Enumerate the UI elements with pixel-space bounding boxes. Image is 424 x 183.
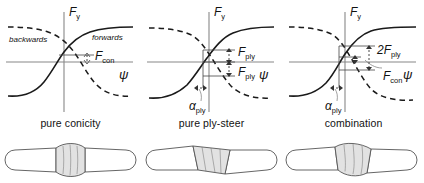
f-con-label: Fcon (383, 69, 402, 85)
f-ply-lower-label: Fply (238, 65, 255, 81)
tyre-contact-patch (335, 143, 371, 175)
alpha-ply-leader (335, 89, 337, 101)
panel-combination: Fy ψ 2Fply Fcon αply combination (283, 0, 424, 183)
tyre-force-figure: Fy ψ backwards forwards Fcon pure conici… (0, 0, 424, 183)
tyre-footprint-combination (283, 136, 424, 183)
alpha-ply-label: αply (189, 99, 206, 115)
backwards-label: backwards (9, 35, 47, 44)
curve-backwards (289, 27, 413, 100)
caption-combination: combination (283, 116, 424, 130)
tyre-left-shoulder (286, 147, 338, 170)
caption-pure-ply-steer: pure ply-steer (141, 116, 282, 130)
tyre-left-shoulder (5, 148, 56, 172)
alpha-ply-label: αply (325, 99, 342, 115)
two-f-ply-label: 2Fply (376, 43, 401, 59)
f-con-label: Fcon (95, 49, 114, 65)
alpha-ply-arrow-right (203, 85, 207, 91)
x-axis-label: ψ (403, 67, 413, 82)
plot-pure-conicity: Fy ψ backwards forwards Fcon (0, 0, 141, 115)
alpha-ply-arrow-right (339, 85, 343, 91)
tyre-left-shoulder (146, 146, 198, 170)
curve-backwards (149, 28, 271, 98)
plot-pure-ply-steer: Fy ψ Fply Fply αply (141, 0, 282, 115)
f-ply-upper-label: Fply (238, 45, 255, 61)
y-axis-label: Fy (350, 5, 361, 21)
tyre-right-shoulder (367, 149, 417, 173)
alpha-ply-arrow-left (330, 85, 334, 91)
alpha-ply-leader (199, 89, 201, 101)
plot-combination: Fy ψ 2Fply Fcon αply (283, 0, 424, 115)
y-axis-label: Fy (69, 5, 80, 21)
forwards-label: forwards (92, 33, 123, 42)
f-con-leader (365, 60, 382, 68)
tyre-footprint-pure-conicity (0, 136, 141, 183)
panel-pure-conicity: Fy ψ backwards forwards Fcon pure conici… (0, 0, 141, 183)
curve-forwards (149, 27, 274, 98)
panel-pure-ply-steer: Fy ψ Fply Fply αply pure ply-steer (141, 0, 282, 183)
x-axis-label: ψ (119, 67, 129, 82)
tyre-footprint-pure-ply-steer (141, 136, 282, 183)
alpha-ply-arrow-left (194, 85, 198, 91)
caption-pure-conicity: pure conicity (0, 116, 141, 130)
tyre-right-shoulder (85, 148, 136, 172)
x-axis-label: ψ (259, 67, 269, 82)
y-axis-label: Fy (214, 5, 225, 21)
tyre-right-shoulder (225, 150, 277, 174)
